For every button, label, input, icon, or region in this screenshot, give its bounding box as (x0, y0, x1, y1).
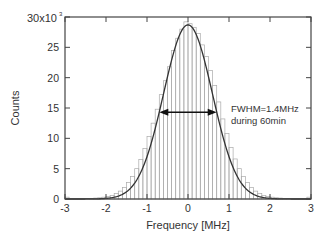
x-tick-label: -2 (101, 202, 110, 214)
histogram-bar (172, 50, 176, 199)
histogram-bar (143, 149, 147, 199)
histogram-bar (237, 169, 241, 199)
histogram-bar (200, 45, 204, 199)
histogram-bar (196, 33, 200, 199)
histogram-bar (233, 159, 237, 199)
histogram-chart: -3-2-10123 0510152025 30x10 3 Frequency … (0, 0, 324, 242)
x-tick-label: 1 (226, 202, 232, 214)
histogram-bar (139, 160, 143, 199)
fwhm-label: FWHM=1.4MHz (231, 103, 299, 114)
arrow-right-icon (208, 109, 217, 116)
x-tick-label: 2 (267, 202, 273, 214)
duration-label: during 60min (231, 115, 286, 126)
histogram-bar (225, 133, 229, 199)
fwhm-annotation: FWHM=1.4MHz during 60min (159, 103, 299, 126)
histogram-bar (204, 56, 208, 199)
histogram-bar (135, 169, 139, 199)
arrow-left-icon (159, 109, 168, 116)
histogram-bar (229, 147, 233, 199)
y-axis-label: Counts (9, 90, 21, 125)
x-tick-label: 3 (308, 202, 314, 214)
y-tick-label: 20 (47, 72, 59, 84)
y-multiplier-exponent: 3 (59, 11, 63, 17)
histogram-bar (192, 27, 196, 199)
histogram-bar (168, 67, 172, 199)
y-multiplier-label: 30x10 (27, 12, 57, 24)
histogram-bar (176, 38, 180, 199)
x-tick-label: -3 (60, 202, 69, 214)
histogram-bar (180, 29, 184, 199)
y-tick-label: 0 (53, 193, 59, 205)
y-tick-label: 10 (47, 132, 59, 144)
y-tick-label: 5 (53, 163, 59, 175)
x-axis-label: Frequency [MHz] (146, 219, 230, 231)
x-tick-label: 0 (185, 202, 191, 214)
histogram-bar (184, 22, 188, 199)
x-tick-label: -1 (142, 202, 151, 214)
y-tick-label: 25 (47, 41, 59, 53)
y-tick-label: 15 (47, 102, 59, 114)
histogram-bar (163, 81, 167, 199)
histogram-bar (188, 24, 192, 199)
